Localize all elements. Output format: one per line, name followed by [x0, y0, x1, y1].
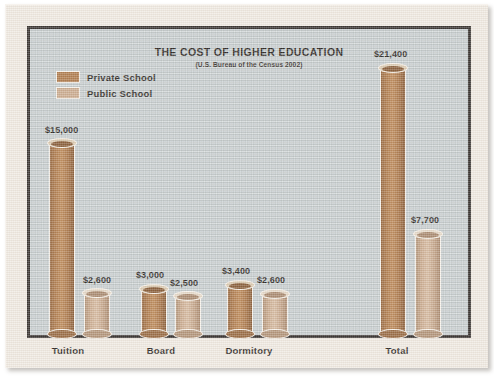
legend-label-public: Public School [87, 88, 152, 99]
chart-paper: THE COST OF HIGHER EDUCATION (U.S. Burea… [5, 4, 488, 368]
bar-total-private [380, 68, 406, 334]
screenshot-root: THE COST OF HIGHER EDUCATION (U.S. Burea… [0, 0, 494, 387]
legend-swatch-public-icon [56, 87, 80, 99]
legend-item-public: Public School [56, 87, 156, 99]
bar-base-ellipse [82, 329, 111, 339]
bar-body [141, 289, 167, 334]
bar-base-ellipse [173, 329, 202, 339]
bar-dormitory-private [227, 285, 253, 334]
bar-top-inner [143, 287, 165, 293]
bar-value-dormitory-private: $3,400 [222, 266, 250, 276]
bar-base-ellipse [260, 329, 289, 339]
bar-value-tuition-public: $2,600 [83, 275, 111, 285]
bar-value-dormitory-public: $2,600 [257, 275, 285, 285]
bar-base-ellipse [47, 329, 76, 339]
legend-swatch-private-icon [56, 71, 80, 83]
axis-label-tuition: Tuition [32, 345, 104, 356]
bar-dormitory-public [262, 294, 288, 334]
bar-base-ellipse [378, 329, 407, 339]
bar-tuition-private [49, 143, 75, 334]
bar-top-inner [417, 232, 439, 238]
legend-item-private: Private School [56, 71, 156, 83]
bar-top-inner [264, 292, 286, 298]
bar-value-tuition-private: $15,000 [45, 125, 78, 135]
bar-top-inner [382, 66, 404, 72]
bar-top-inner [51, 141, 73, 147]
bar-top-inner [86, 291, 108, 297]
bar-board-public [175, 296, 201, 334]
axis-label-dormitory: Dormitory [209, 345, 289, 356]
bar-base-ellipse [225, 329, 254, 339]
bar-body [84, 293, 110, 334]
bar-value-total-private: $21,400 [374, 49, 407, 59]
bar-body [262, 294, 288, 334]
bar-base-ellipse [413, 329, 442, 339]
bar-board-private [141, 289, 167, 334]
bar-body [415, 234, 441, 334]
bar-total-public [415, 234, 441, 334]
axis-label-total: Total [361, 345, 433, 356]
bar-body [49, 143, 75, 334]
bar-base-ellipse [139, 329, 168, 339]
chart-frame: THE COST OF HIGHER EDUCATION (U.S. Burea… [27, 26, 471, 338]
bar-tuition-public [84, 293, 110, 334]
legend-label-private: Private School [87, 72, 156, 83]
bar-value-total-public: $7,700 [411, 215, 439, 225]
axis-label-board: Board [125, 345, 197, 356]
bar-value-board-public: $2,500 [170, 278, 198, 288]
bar-body [380, 68, 406, 334]
bar-top-inner [177, 294, 199, 300]
chart-legend: Private School Public School [56, 71, 156, 103]
bar-body [227, 285, 253, 334]
bar-value-board-private: $3,000 [136, 270, 164, 280]
bar-top-inner [229, 283, 251, 289]
